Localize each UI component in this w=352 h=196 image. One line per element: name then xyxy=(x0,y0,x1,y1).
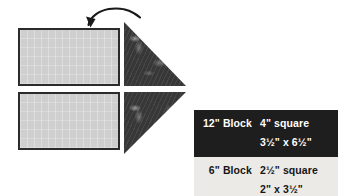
cut-size-value: 2½" square xyxy=(260,161,338,180)
block-label: 6" Block xyxy=(194,161,260,180)
bottom-light-rectangle-patch xyxy=(18,92,120,150)
cut-size-value: 3½" x 6½" xyxy=(260,133,338,152)
cut-size-value: 2" x 3½" xyxy=(260,180,338,196)
bottom-dark-triangle-patch xyxy=(124,92,186,154)
illustration-canvas: 12" Block 4" square 3½" x 6½" 6" Block 2… xyxy=(0,0,352,196)
table-row: 3½" x 6½" xyxy=(194,133,338,152)
cut-size-value: 4" square xyxy=(260,114,338,133)
chart-band-12-inch-block: 12" Block 4" square 3½" x 6½" xyxy=(194,110,338,157)
table-row: 12" Block 4" square xyxy=(194,114,338,133)
table-row: 2" x 3½" xyxy=(194,180,338,196)
block-label: 12" Block xyxy=(194,114,260,133)
quilt-block-piecing-diagram xyxy=(0,0,194,196)
chart-band-6-inch-block: 6" Block 2½" square 2" x 3½" xyxy=(194,157,338,196)
dark-floral-print-fill xyxy=(124,92,186,154)
curved-rotation-arrow-icon xyxy=(78,0,154,34)
top-light-rectangle-patch xyxy=(18,28,120,86)
cutting-size-chart: 12" Block 4" square 3½" x 6½" 6" Block 2… xyxy=(194,110,338,196)
table-row: 6" Block 2½" square xyxy=(194,161,338,180)
